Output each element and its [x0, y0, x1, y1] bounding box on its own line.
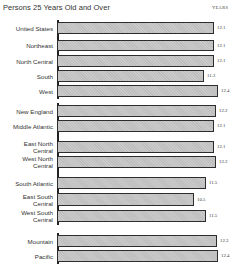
bar-value: 11.3 [207, 73, 215, 78]
bar-label: East NorthCentral [24, 140, 53, 154]
bar-label: Mountain [28, 238, 53, 245]
bar-value: 12.1 [217, 123, 225, 128]
bar-value: 12.1 [217, 25, 225, 30]
bar-value: 10.5 [197, 197, 205, 202]
bar-label: Pacific [35, 253, 53, 260]
bar [57, 22, 214, 34]
bar [57, 120, 214, 132]
bar-value: 11.5 [209, 213, 217, 218]
bar-value: 11.5 [209, 180, 217, 185]
units-label: YEARS [212, 5, 228, 10]
bar-value: 12.2 [219, 159, 227, 164]
bar-label: East SouthCentral [23, 193, 53, 207]
bar [57, 235, 217, 247]
chart-subtitle: Persons 25 Years Old and Over [3, 3, 110, 12]
bar [57, 40, 214, 51]
bar-label: West SouthCentral [21, 209, 53, 223]
bar-label: West NorthCentral [22, 155, 53, 169]
bar-label: United States [16, 25, 53, 32]
bar [57, 177, 206, 189]
bar-value: 12.1 [217, 144, 225, 149]
bar [57, 193, 194, 206]
bar [57, 55, 214, 67]
bar [57, 210, 206, 222]
bar-value: 12.3 [220, 238, 228, 243]
bar-value: 12.4 [221, 88, 229, 93]
bar-label: South Atlantic [15, 180, 53, 187]
bar-value: 12.4 [221, 253, 229, 258]
bar [57, 141, 214, 153]
bar-value: 12.2 [219, 108, 227, 113]
bar [57, 250, 218, 262]
bar [57, 105, 216, 117]
bar-label: Northeast [26, 42, 53, 49]
bar-label: North Central [16, 58, 53, 65]
bar [57, 70, 204, 82]
bar-label: West [39, 88, 53, 95]
bar [57, 156, 216, 168]
bar-label: South [37, 73, 53, 80]
bar [57, 85, 218, 97]
bar-label: Middle Atlantic [13, 123, 53, 130]
bar-value: 12.1 [217, 43, 225, 48]
bar-label: New England [16, 108, 53, 115]
bar-value: 12.1 [217, 58, 225, 63]
